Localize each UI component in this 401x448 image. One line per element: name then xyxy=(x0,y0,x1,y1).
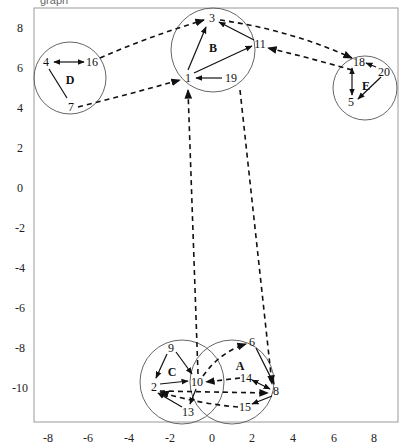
node-3: 3 xyxy=(209,11,215,25)
x-tick-label: -4 xyxy=(124,431,134,445)
y-tick-label: -2 xyxy=(15,221,25,235)
x-tick-label: -6 xyxy=(83,431,93,445)
dashed-edge-10-to-1 xyxy=(188,90,198,374)
y-tick-label: -10 xyxy=(12,381,28,395)
x-tick-label: 8 xyxy=(371,431,377,445)
intra-cluster-edges xyxy=(49,22,381,407)
edge-9-to-2 xyxy=(156,354,167,378)
edge-9-to-10 xyxy=(176,352,192,374)
node-16: 16 xyxy=(86,55,98,69)
y-tick-label: 6 xyxy=(17,61,23,75)
cluster-graph-figure: graph -8-6-4-202468 86420-2-4-6-8-10 DBE… xyxy=(0,0,401,448)
node-5: 5 xyxy=(348,95,354,109)
y-tick-label: -8 xyxy=(15,341,25,355)
dashed-edge-2-to-8 xyxy=(160,391,268,393)
node-8: 8 xyxy=(273,384,279,398)
node-20: 20 xyxy=(378,65,390,79)
x-tick-label: -8 xyxy=(43,431,53,445)
node-14: 14 xyxy=(240,371,252,385)
y-tick-label: 0 xyxy=(17,181,23,195)
y-tick-label: 2 xyxy=(17,141,23,155)
x-tick-label: 6 xyxy=(331,431,337,445)
x-tick-label: 4 xyxy=(290,431,296,445)
edge-8-to-14 xyxy=(252,380,270,389)
dashed-edge-16-to-3 xyxy=(100,20,204,58)
node-6: 6 xyxy=(249,335,255,349)
dashed-edge-14-to-10 xyxy=(206,378,240,382)
edge-13-to-2 xyxy=(158,393,182,407)
dashed-edge-7-to-1 xyxy=(78,80,180,107)
cluster-c-label: C xyxy=(168,365,177,379)
x-tick-label: 0 xyxy=(209,431,215,445)
cluster-b-label: B xyxy=(209,41,217,55)
node-7: 7 xyxy=(68,100,74,114)
x-tick-label: -2 xyxy=(165,431,175,445)
node-13: 13 xyxy=(182,405,194,419)
x-axis-ticks: -8-6-4-202468 xyxy=(43,431,377,445)
y-tick-label: 8 xyxy=(17,21,23,35)
cluster-d-label: D xyxy=(66,73,75,87)
node-15: 15 xyxy=(239,400,251,414)
node-10: 10 xyxy=(191,375,203,389)
node-2: 2 xyxy=(151,380,157,394)
edge-1-to-11 xyxy=(194,46,252,73)
node-18: 18 xyxy=(353,55,365,69)
node-11: 11 xyxy=(254,37,266,51)
figure-title-fragment: graph xyxy=(40,0,68,6)
node-1: 1 xyxy=(185,71,191,85)
edge-20-to-18 xyxy=(366,63,376,67)
dashed-edge-19-to-8 xyxy=(240,90,272,384)
y-axis-ticks: 86420-2-4-6-8-10 xyxy=(12,21,28,395)
node-9: 9 xyxy=(168,341,174,355)
dashed-edge-15-to-2 xyxy=(160,392,238,407)
edge-1-to-3 xyxy=(188,27,206,70)
edge-4-to-7 xyxy=(49,69,67,98)
plot-frame xyxy=(34,8,398,422)
node-4: 4 xyxy=(43,55,49,69)
y-tick-label: -6 xyxy=(15,301,25,315)
y-tick-label: -4 xyxy=(15,261,25,275)
edge-2-to-10 xyxy=(160,381,188,384)
x-tick-label: 2 xyxy=(249,431,255,445)
y-tick-label: 4 xyxy=(17,101,23,115)
dashed-edge-18-to-11 xyxy=(268,48,352,70)
node-19: 19 xyxy=(225,71,237,85)
